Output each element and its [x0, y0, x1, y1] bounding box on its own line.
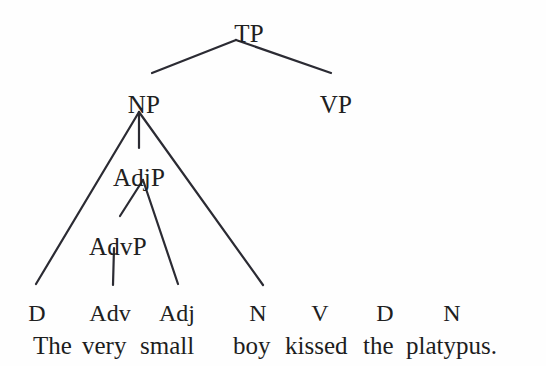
node-vp: VP — [320, 92, 352, 117]
pos-label-3-n: N — [249, 301, 266, 325]
pos-label-0-d: D — [28, 301, 45, 325]
sentence-word-5: the — [363, 333, 394, 358]
pos-label-2-adj: Adj — [159, 301, 195, 325]
pos-label-4-v: V — [311, 301, 328, 325]
branch-adjp-to-adj — [143, 180, 178, 284]
pos-label-5-d: D — [376, 301, 393, 325]
branch-np-to-n — [139, 112, 263, 285]
branch-tp-to-np — [152, 40, 236, 73]
tree-branch-lines — [0, 0, 546, 366]
sentence-word-0: The — [33, 333, 72, 358]
node-np: NP — [128, 92, 160, 117]
sentence-word-4: kissed — [285, 333, 348, 358]
sentence-word-3: boy — [233, 333, 271, 358]
sentence-word-2: small — [140, 333, 194, 358]
sentence-word-1: very — [82, 333, 126, 358]
node-adjp: AdjP — [113, 165, 165, 190]
sentence-word-6: platypus. — [406, 333, 497, 358]
node-tp: TP — [234, 21, 264, 46]
node-advp: AdvP — [89, 234, 147, 259]
pos-label-6-n: N — [443, 301, 460, 325]
pos-label-1-adv: Adv — [89, 301, 130, 325]
syntax-tree-figure: TP NP VP AdjP AdvP DAdvAdjNVDN Theverysm… — [0, 0, 546, 366]
